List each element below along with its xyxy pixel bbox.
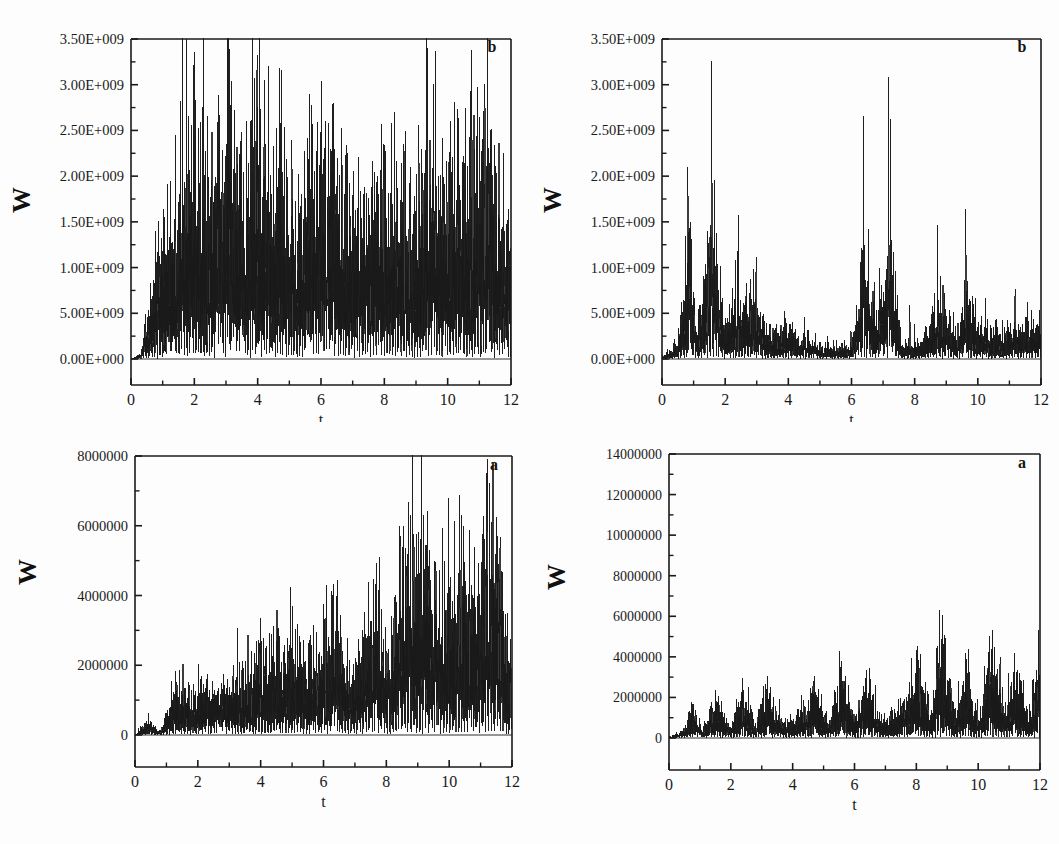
y-tick-label: 3.00E+009 [60, 77, 124, 93]
x-tick-label: 6 [848, 391, 856, 408]
y-tick-label: 2.50E+009 [591, 122, 655, 138]
y-tick-label: 0.00E+000 [60, 351, 124, 367]
x-axis-ticks: 024681012 [665, 763, 1048, 793]
y-axis-title: W [538, 187, 567, 213]
plot-area-bottom-left: 02000000400000060000008000000W024681012t… [0, 422, 530, 844]
data-series-line [669, 610, 1040, 738]
plot-area-bottom-right: 0200000040000006000000800000010000000120… [529, 422, 1059, 844]
x-tick-label: 4 [257, 773, 265, 790]
y-axis-ticks: 0200000040000006000000800000010000000120… [606, 447, 676, 746]
y-tick-label: 3.50E+009 [60, 31, 124, 47]
y-tick-label: 5.00E+009 [60, 305, 124, 321]
y-tick-label: 0 [121, 727, 128, 743]
y-tick-label: 4000000 [613, 650, 662, 665]
y-tick-label: 5.00E+009 [591, 305, 655, 321]
y-tick-label: 3.00E+009 [591, 77, 655, 93]
y-axis-title: W [542, 564, 571, 590]
x-tick-label: 12 [1032, 776, 1048, 793]
x-tick-label: 4 [254, 391, 262, 408]
y-tick-label: 10000000 [606, 528, 662, 543]
x-tick-label: 12 [503, 391, 519, 408]
x-tick-label: 2 [194, 773, 202, 790]
x-tick-label: 6 [851, 776, 859, 793]
panel-top-right: 0.00E+0005.00E+0091.00E+0091.50E+0092.00… [529, 0, 1059, 422]
y-axis-ticks: 0.00E+0005.00E+0091.00E+0091.50E+0092.00… [591, 31, 669, 367]
y-tick-label: 2.50E+009 [60, 122, 124, 138]
y-axis-title: W [13, 559, 42, 585]
y-tick-label: 8000000 [613, 569, 662, 584]
x-tick-label: 0 [127, 391, 135, 408]
y-tick-label: 4000000 [77, 588, 128, 604]
y-tick-label: 2000000 [613, 690, 662, 705]
plot-area-top-left: 0.00E+0005.00E+0091.00E+0091.50E+0092.00… [0, 0, 530, 422]
x-tick-label: 12 [1033, 391, 1049, 408]
x-tick-label: 0 [665, 776, 673, 793]
x-axis-ticks: 024681012 [658, 378, 1049, 408]
y-tick-label: 1.00E+009 [591, 260, 655, 276]
x-tick-label: 4 [784, 391, 792, 408]
x-tick-label: 6 [317, 391, 325, 408]
y-tick-label: 6000000 [77, 518, 128, 534]
y-axis-ticks: 02000000400000060000008000000 [77, 448, 142, 743]
x-tick-label: 10 [970, 776, 986, 793]
x-tick-label: 10 [440, 391, 456, 408]
x-axis-title: t [319, 411, 324, 422]
x-axis-title: t [849, 411, 854, 422]
panel-bottom-right: 0200000040000006000000800000010000000120… [529, 422, 1059, 844]
data-series-line [135, 440, 512, 735]
x-tick-label: 4 [789, 776, 797, 793]
x-tick-label: 8 [382, 773, 390, 790]
x-tick-label: 2 [727, 776, 735, 793]
x-axis-ticks: 024681012 [131, 760, 520, 790]
y-tick-label: 12000000 [606, 488, 662, 503]
x-axis-title: t [852, 796, 857, 813]
y-tick-label: 14000000 [606, 447, 662, 462]
panel-letter: a [490, 456, 498, 473]
plot-area-top-right: 0.00E+0005.00E+0091.00E+0091.50E+0092.00… [529, 0, 1059, 422]
x-tick-label: 12 [504, 773, 520, 790]
x-tick-label: 8 [911, 391, 919, 408]
y-tick-label: 1.50E+009 [591, 214, 655, 230]
x-axis-ticks: 024681012 [127, 378, 519, 408]
y-tick-label: 2000000 [77, 657, 128, 673]
x-tick-label: 10 [441, 773, 457, 790]
x-tick-label: 0 [658, 391, 666, 408]
panel-letter: a [1018, 454, 1026, 471]
panel-letter: b [488, 38, 497, 55]
y-tick-label: 3.50E+009 [591, 31, 655, 47]
x-tick-label: 2 [190, 391, 198, 408]
figure-canvas: 0.00E+0005.00E+0091.00E+0091.50E+0092.00… [0, 0, 1059, 844]
y-tick-label: 6000000 [613, 609, 662, 624]
y-tick-label: 0 [655, 731, 662, 746]
x-axis-title: t [321, 793, 326, 810]
data-series-line [662, 61, 1041, 359]
y-tick-label: 1.50E+009 [60, 214, 124, 230]
x-tick-label: 10 [970, 391, 986, 408]
y-tick-label: 2.00E+009 [60, 168, 124, 184]
panel-bottom-left: 02000000400000060000008000000W024681012t… [0, 422, 530, 844]
x-tick-label: 8 [380, 391, 388, 408]
y-axis-title: W [7, 187, 36, 213]
x-tick-label: 0 [131, 773, 139, 790]
x-tick-label: 6 [320, 773, 328, 790]
y-tick-label: 1.00E+009 [60, 260, 124, 276]
y-tick-label: 0.00E+000 [591, 351, 655, 367]
panel-letter: b [1018, 38, 1027, 55]
x-tick-label: 8 [912, 776, 920, 793]
x-tick-label: 2 [721, 391, 729, 408]
y-tick-label: 8000000 [77, 448, 128, 464]
panel-top-left: 0.00E+0005.00E+0091.00E+0091.50E+0092.00… [0, 0, 530, 422]
data-series-line [131, 0, 511, 359]
y-tick-label: 2.00E+009 [591, 168, 655, 184]
y-axis-ticks: 0.00E+0005.00E+0091.00E+0091.50E+0092.00… [60, 31, 138, 367]
